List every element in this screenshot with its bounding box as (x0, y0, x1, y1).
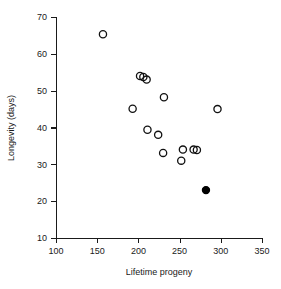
scatter-plot: 100150200250300350 10203040506070 Lifeti… (0, 0, 281, 289)
data-point-open (179, 146, 186, 153)
figure-container: 100150200250300350 10203040506070 Lifeti… (0, 0, 281, 289)
axes-group (56, 17, 262, 239)
data-point-open (178, 157, 185, 164)
x-tick-label: 250 (172, 246, 187, 256)
data-point-open (129, 105, 136, 112)
y-tick-label: 40 (37, 123, 47, 133)
y-tick-label: 60 (37, 49, 47, 59)
x-tick-label: 300 (213, 246, 228, 256)
x-tick-label: 150 (90, 246, 105, 256)
data-point-open (160, 149, 167, 156)
x-axis-title: Lifetime progeny (126, 267, 193, 277)
x-tick-label: 350 (254, 246, 269, 256)
data-point-open (214, 105, 221, 112)
y-tick-label: 70 (37, 12, 47, 22)
y-axis-ticks: 10203040506070 (37, 12, 56, 243)
data-point-open (160, 94, 167, 101)
data-point-open (99, 31, 106, 38)
y-tick-label: 50 (37, 86, 47, 96)
x-axis-ticks: 100150200250300350 (48, 238, 269, 256)
x-tick-label: 100 (48, 246, 63, 256)
data-point-open (155, 131, 162, 138)
y-axis-title: Longevity (days) (6, 95, 16, 161)
y-tick-label: 30 (37, 160, 47, 170)
data-point-filled (202, 187, 209, 194)
data-points-layer (99, 31, 221, 194)
y-tick-label: 20 (37, 196, 47, 206)
y-tick-label: 10 (37, 233, 47, 243)
data-point-open (144, 126, 151, 133)
x-tick-label: 200 (131, 246, 146, 256)
